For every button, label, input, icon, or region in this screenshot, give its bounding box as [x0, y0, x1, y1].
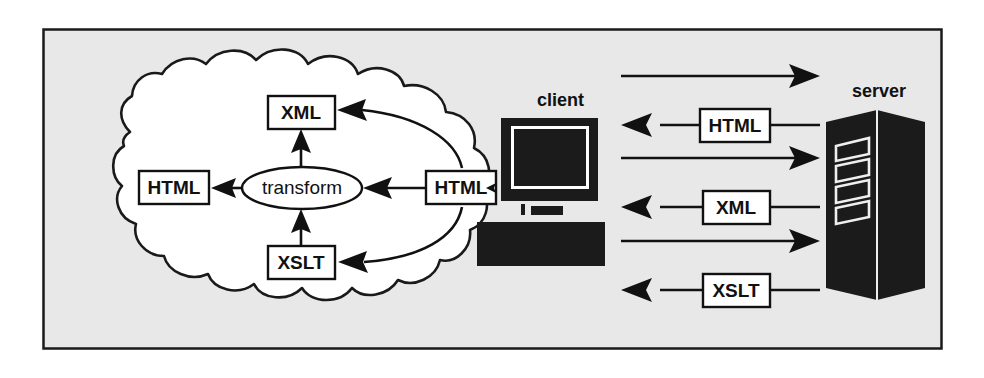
cloud-source-html-label: HTML [435, 177, 488, 198]
cloud-xml-label: XML [281, 102, 322, 123]
client-label: client [537, 90, 584, 110]
architecture-diagram: HTML transform HTML XML XSLT [0, 0, 984, 378]
cloud-transform-label: transform [262, 177, 342, 198]
cloud-node-output-html: HTML [139, 171, 209, 204]
exchange-xslt-label: XSLT [712, 280, 760, 301]
cloud-node-xslt: XSLT [268, 246, 335, 279]
client-keyboard [477, 222, 605, 266]
exchange-html-label: HTML [709, 115, 762, 136]
client-stand-base [531, 206, 563, 215]
diagram-figure: HTML transform HTML XML XSLT [0, 0, 984, 378]
cloud-output-html-label: HTML [148, 177, 201, 198]
exchange-xml-label: XML [716, 197, 757, 218]
client-screen [513, 128, 588, 188]
server-label: server [852, 81, 906, 101]
cloud-xslt-label: XSLT [277, 252, 325, 273]
server-side-face [877, 110, 925, 300]
cloud-node-transform: transform [242, 167, 362, 209]
client-stand-post [521, 204, 525, 215]
cloud-node-xml: XML [268, 96, 335, 129]
server-tower [826, 110, 925, 300]
cloud-node-source-html: HTML [426, 171, 496, 204]
